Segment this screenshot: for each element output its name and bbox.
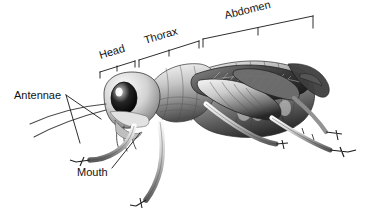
compound-eye	[111, 82, 137, 114]
leader-antennae	[66, 95, 101, 143]
grasshopper-illustration	[0, 0, 381, 217]
label-mouth: Mouth	[77, 166, 108, 178]
label-antennae: Antennae	[14, 89, 61, 101]
bracket-abdomen	[203, 16, 313, 47]
grasshopper-body	[30, 61, 356, 208]
figure-canvas: Head Thorax Abdomen Antennae Mouth	[0, 0, 381, 217]
antennae	[30, 104, 106, 137]
